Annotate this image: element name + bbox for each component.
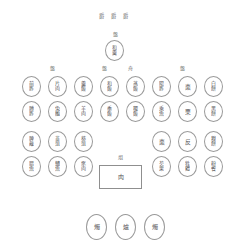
dish-r4c2[interactable]: 鱐 魚 (48, 156, 67, 177)
dish-r2c7[interactable]: 栗 (178, 101, 197, 122)
dish-r1c1[interactable]: 前 胙 (22, 76, 41, 97)
dish-r4c7-glyphs: 牲 體 (185, 162, 190, 172)
dish-r2c1[interactable]: 膊 胙 (22, 101, 41, 122)
dish-r1c6-bottom: 胙 (159, 87, 164, 92)
dish-r3c1-glyphs: 脾 胾 (29, 137, 34, 147)
dish-r4c8-bottom: 餈 (211, 167, 216, 172)
dish-r2c3[interactable]: 羊 肉 (74, 101, 93, 122)
header-mark-1: 爵 (99, 14, 104, 19)
dish-r1c8-bottom: 餅 (211, 87, 216, 92)
vessel-candle-right-label: 燭 (152, 224, 158, 230)
group-caption-col4: 盤 (97, 66, 111, 71)
dish-r2c8[interactable]: 黑 餅 (204, 101, 223, 122)
dish-r4c3-bottom: 肉 (81, 167, 86, 172)
dish-r2c2-bottom: 醢 (55, 112, 60, 117)
dish-r2c8-bottom: 餅 (211, 112, 216, 117)
vessel-candle-left[interactable]: 燭 (86, 214, 107, 240)
dish-r3c3[interactable]: 葵 菹 (74, 131, 93, 152)
dish-r3c2-glyphs: 韭 菹 (55, 137, 60, 147)
dish-r1c8-glyphs: 白 餅 (211, 82, 216, 92)
dish-r3c8[interactable]: 糗 餅 (204, 131, 223, 152)
dish-r3c3-glyphs: 葵 菹 (81, 137, 86, 147)
dish-r3c1-bottom: 胾 (29, 142, 34, 147)
dish-r3c7-glyphs: 反 (185, 139, 191, 145)
dish-r1c4-bottom: 飯 (107, 87, 112, 92)
dish-r2c5-glyphs: 稷 飯 (133, 107, 138, 117)
dish-r1c5[interactable]: 蒸 飯 (126, 76, 145, 97)
dish-r1c7[interactable]: 棗 (178, 76, 197, 97)
dish-r3c6-glyphs: 棗 (159, 139, 165, 145)
dish-r1c2-glyphs: 片 肉 (55, 82, 60, 92)
dish-r2c4[interactable]: 黍 飯 (100, 101, 119, 122)
header-mark-3: 爵 (123, 14, 128, 19)
dish-r2c6[interactable]: 乘 魚 (152, 101, 171, 122)
dish-r2c6-glyphs: 乘 魚 (159, 107, 164, 117)
dish-r2c4-bottom: 飯 (107, 112, 112, 117)
dish-r2c3-glyphs: 羊 肉 (81, 107, 86, 117)
dish-r2c2[interactable]: 兔 醢 (48, 101, 67, 122)
dish-r4c3-glyphs: 豕 肉 (81, 162, 86, 172)
group-caption-col2: 盤 (45, 66, 59, 71)
center-top-node-label-bottom: 羹 (112, 51, 117, 56)
dish-r3c6[interactable]: 棗 (152, 131, 171, 152)
vessel-censer[interactable]: 爐 (115, 214, 136, 240)
group-caption-col7: 盤 (175, 66, 189, 71)
dish-r1c6[interactable]: 陽 胙 (152, 76, 171, 97)
vessel-candle-right[interactable]: 燭 (144, 214, 165, 240)
center-top-node-glyphs: 和 羹 (112, 46, 117, 56)
dish-r2c4-glyphs: 黍 飯 (107, 107, 112, 117)
dish-r1c4[interactable]: 和 飯 (100, 76, 119, 97)
group-caption-col5: 舟 (123, 66, 137, 71)
dish-r3c3-bottom: 菹 (81, 142, 86, 147)
dish-r1c2-bottom: 肉 (55, 87, 60, 92)
center-table-label: 肉 (118, 174, 124, 180)
dish-r1c6-glyphs: 陽 胙 (159, 82, 164, 92)
dish-r4c1-glyphs: 腊 魚 (29, 162, 34, 172)
vessel-candle-left-label: 燭 (94, 224, 100, 230)
dish-r4c6-bottom: 栗 (159, 167, 164, 172)
dish-r1c3[interactable]: 羹 飯 (74, 76, 93, 97)
dish-r4c1[interactable]: 腊 魚 (22, 156, 41, 177)
dish-r1c7-glyphs: 棗 (185, 84, 191, 90)
dish-r4c8-glyphs: 粉 餈 (211, 162, 216, 172)
dish-r3c1[interactable]: 脾 胾 (22, 131, 41, 152)
dish-r2c5-bottom: 飯 (133, 112, 138, 117)
dish-r2c7-top: 栗 (185, 109, 191, 115)
dish-r3c8-glyphs: 糗 餅 (211, 137, 216, 147)
dish-r4c2-glyphs: 鱐 魚 (55, 162, 60, 172)
dish-r2c6-bottom: 魚 (159, 112, 164, 117)
dish-r3c7[interactable]: 反 (178, 131, 197, 152)
dish-r2c1-glyphs: 膊 胙 (29, 107, 34, 117)
dish-r4c7-bottom: 體 (185, 167, 190, 172)
center-table-caption: 俎 (112, 155, 128, 160)
vessel-censer-label: 爐 (123, 224, 129, 230)
dish-r3c7-top: 反 (185, 139, 191, 145)
dish-r1c2[interactable]: 片 肉 (48, 76, 67, 97)
header-marks-group: 爵 爵 爵 (99, 14, 128, 19)
dish-r4c3[interactable]: 豕 肉 (74, 156, 93, 177)
dish-r3c6-top: 棗 (159, 139, 165, 145)
dish-r2c3-bottom: 肉 (81, 112, 86, 117)
dish-r3c2-bottom: 菹 (55, 142, 60, 147)
dish-r3c2[interactable]: 韭 菹 (48, 131, 67, 152)
dish-r2c8-glyphs: 黑 餅 (211, 107, 216, 117)
dish-r2c7-glyphs: 栗 (185, 109, 191, 115)
dish-r4c8[interactable]: 粉 餈 (204, 156, 223, 177)
dish-r1c3-glyphs: 羹 飯 (81, 82, 86, 92)
dish-r2c1-bottom: 胙 (29, 112, 34, 117)
dish-r1c7-top: 棗 (185, 84, 191, 90)
dish-r4c6[interactable]: 芡 栗 (152, 156, 171, 177)
dish-r4c2-bottom: 魚 (55, 167, 60, 172)
dish-r1c5-glyphs: 蒸 飯 (133, 82, 138, 92)
dish-r1c1-bottom: 胙 (29, 87, 34, 92)
dish-r4c6-glyphs: 芡 栗 (159, 162, 164, 172)
dish-r4c1-bottom: 魚 (29, 167, 34, 172)
center-top-node[interactable]: 和 羹 (105, 40, 124, 61)
dish-r4c7[interactable]: 牲 體 (178, 156, 197, 177)
dish-r1c4-glyphs: 和 飯 (107, 82, 112, 92)
center-table[interactable]: 肉 (99, 165, 142, 189)
dish-r2c2-glyphs: 兔 醢 (55, 107, 60, 117)
dish-r1c8[interactable]: 白 餅 (204, 76, 223, 97)
dish-r1c3-bottom: 飯 (81, 87, 86, 92)
dish-r2c5[interactable]: 稷 飯 (126, 101, 145, 122)
